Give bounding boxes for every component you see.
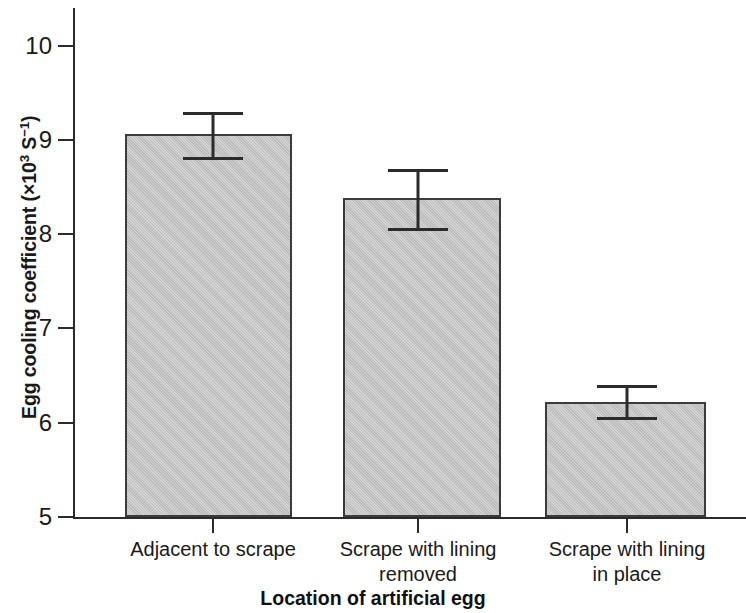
error-bar-cap-lower	[597, 417, 657, 420]
x-axis-tick-label: Scrape with liningin place	[522, 537, 732, 587]
error-bar-cap-upper	[388, 169, 448, 172]
x-axis-tick-label-line: Scrape with lining	[313, 537, 523, 562]
y-axis-title-exponent-3: 3	[17, 155, 32, 162]
bar	[125, 134, 292, 517]
error-bar-cap-lower	[388, 228, 448, 231]
x-axis-tick	[417, 519, 419, 533]
error-bar-line	[626, 386, 629, 418]
x-axis-tick	[212, 519, 214, 533]
error-bar-cap-lower	[183, 157, 243, 160]
error-bar-cap-upper	[183, 112, 243, 115]
x-axis-title: Location of artificial egg	[0, 587, 746, 610]
x-axis-tick-label: Scrape with liningremoved	[313, 537, 523, 587]
y-axis-tick-label: 5	[0, 503, 52, 531]
y-axis-tick-label: 6	[0, 409, 52, 437]
bar	[343, 198, 501, 517]
x-axis-tick-label-line: Adjacent to scrape	[108, 537, 318, 562]
y-axis-tick-label: 7	[0, 314, 52, 342]
y-axis-tick-label: 9	[0, 126, 52, 154]
error-bar-line	[417, 170, 420, 228]
x-axis-line	[73, 517, 746, 519]
y-axis-tick	[58, 45, 74, 47]
x-axis-tick-label-line: Scrape with lining	[522, 537, 732, 562]
error-bar-line	[212, 113, 215, 158]
y-axis-title-suffix: )	[18, 115, 40, 121]
chart-figure: Egg cooling coefficient (×103 S−1) 10987…	[0, 0, 746, 613]
y-axis-line	[73, 8, 75, 519]
x-axis-tick-label: Adjacent to scrape	[108, 537, 318, 562]
x-axis-tick-label-line: in place	[522, 562, 732, 587]
x-axis-tick-label-line: removed	[313, 562, 523, 587]
y-axis-tick	[58, 233, 74, 235]
y-axis-title-prefix: Egg cooling coefficient (×10	[18, 162, 40, 419]
y-axis-tick	[58, 516, 74, 518]
y-axis-tick	[58, 422, 74, 424]
error-bar-cap-upper	[597, 385, 657, 388]
y-axis-tick	[58, 327, 74, 329]
y-axis-tick-label: 8	[0, 220, 52, 248]
y-axis-tick-label: 10	[0, 32, 52, 60]
x-axis-tick	[626, 519, 628, 533]
y-axis-tick	[58, 139, 74, 141]
